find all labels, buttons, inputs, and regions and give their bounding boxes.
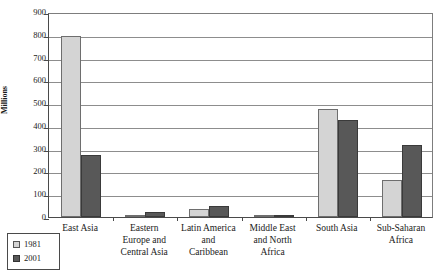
x-axis-label-line: Africa	[369, 234, 433, 246]
y-axis-tick-mark	[44, 173, 49, 174]
x-axis-category-label: EasternEurope andCentral Asia	[112, 222, 176, 258]
x-axis-label-line: Europe and	[112, 234, 176, 246]
x-axis-label-line: and North	[241, 234, 305, 246]
x-axis-category-label: South Asia	[305, 222, 369, 234]
bar-2001-0	[81, 155, 101, 217]
bar-1981-1	[125, 215, 145, 217]
legend-swatch-icon	[13, 255, 20, 262]
x-axis-label-line: South Asia	[305, 222, 369, 234]
x-axis-label-line: and	[176, 234, 240, 246]
gridline	[49, 128, 432, 129]
y-axis-tick-mark	[44, 14, 49, 15]
plot-area	[48, 13, 433, 218]
gridline	[49, 82, 432, 83]
y-axis-tick-label: 900	[20, 8, 46, 17]
y-axis-tick-label: 500	[20, 99, 46, 108]
y-axis-tick-label: 700	[20, 54, 46, 63]
y-axis-tick-label: 100	[20, 190, 46, 199]
y-axis-tick-mark	[44, 37, 49, 38]
y-axis-tick-label: 300	[20, 145, 46, 154]
bar-1981-5	[382, 180, 402, 217]
y-axis-tick-mark	[44, 128, 49, 129]
bar-1981-3	[254, 215, 274, 217]
x-axis-category-label: Middle Eastand NorthAfrica	[241, 222, 305, 258]
y-axis-tick-label: 800	[20, 31, 46, 40]
y-axis-tick-label: 400	[20, 122, 46, 131]
y-axis-tick-mark	[44, 151, 49, 152]
x-axis-tick-mark	[177, 217, 178, 221]
y-axis-tick-label: 600	[20, 76, 46, 85]
x-axis-label-line: Middle East	[241, 222, 305, 234]
legend: 19812001	[7, 233, 60, 270]
legend-item-1981[interactable]: 1981	[13, 237, 59, 251]
bar-2001-3	[274, 215, 294, 217]
x-axis-label-line: Central Asia	[112, 246, 176, 258]
x-axis-label-line: Latin America	[176, 222, 240, 234]
bar-2001-1	[145, 212, 165, 217]
legend-item-2001[interactable]: 2001	[13, 251, 59, 265]
x-axis-tick-mark	[113, 217, 114, 221]
gridline	[49, 37, 432, 38]
gridline	[49, 173, 432, 174]
bar-2001-5	[402, 145, 422, 217]
y-axis-tick-mark	[44, 196, 49, 197]
x-axis-tick-mark	[242, 217, 243, 221]
gridline	[49, 105, 432, 106]
x-axis-label-line: Africa	[241, 246, 305, 258]
x-axis-label-line: Caribbean	[176, 246, 240, 258]
y-axis-title: Millions	[1, 86, 15, 114]
gridline	[49, 151, 432, 152]
bar-2001-2	[209, 206, 229, 217]
legend-label: 1981	[24, 240, 41, 249]
legend-label: 2001	[24, 254, 41, 263]
gridline	[49, 196, 432, 197]
y-axis-tick-mark	[44, 60, 49, 61]
bar-2001-4	[338, 120, 358, 217]
y-axis-tick-label: 200	[20, 167, 46, 176]
x-axis-category-labels: East AsiaEasternEurope andCentral AsiaLa…	[48, 222, 433, 274]
y-axis-tick-mark	[44, 82, 49, 83]
x-axis-tick-mark	[306, 217, 307, 221]
x-axis-label-line: Sub-Saharan	[369, 222, 433, 234]
x-axis-tick-mark	[370, 217, 371, 221]
bar-chart: Millions 0100200300400500600700800900 Ea…	[0, 0, 439, 276]
y-axis-tick-mark	[44, 105, 49, 106]
bar-1981-4	[318, 109, 338, 217]
legend-swatch-icon	[13, 241, 20, 248]
gridline	[49, 60, 432, 61]
x-axis-category-label: Latin AmericaandCaribbean	[176, 222, 240, 258]
bar-1981-2	[189, 209, 209, 217]
y-axis-tick-mark	[44, 219, 49, 220]
x-axis-label-line: Eastern	[112, 222, 176, 234]
y-axis-tick-label: 0	[20, 213, 46, 222]
bar-1981-0	[61, 36, 81, 217]
x-axis-category-label: Sub-SaharanAfrica	[369, 222, 433, 246]
